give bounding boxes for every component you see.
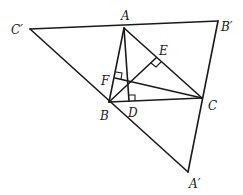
right-angle-mark-e <box>151 62 161 67</box>
label-b: B <box>99 109 109 123</box>
label-a-prime: A′ <box>188 177 201 191</box>
label-c-prime: C′ <box>11 23 23 37</box>
altitude-ad <box>124 28 129 101</box>
label-e: E <box>158 44 168 58</box>
label-a: A <box>120 9 130 23</box>
geometry-diagram: A B′ C′ E F B D C A′ <box>0 0 243 195</box>
label-d: D <box>127 106 138 120</box>
label-b-prime: B′ <box>220 20 233 34</box>
label-f: F <box>100 74 110 88</box>
right-angle-mark-d <box>129 95 135 101</box>
segment-ac <box>124 28 202 98</box>
label-c: C <box>208 99 217 113</box>
segment-bc <box>109 98 202 102</box>
